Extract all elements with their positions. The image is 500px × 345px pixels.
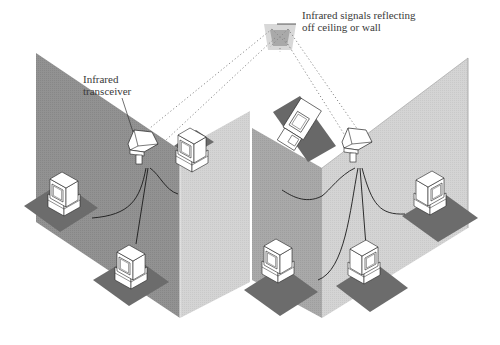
signals-label-line2: off ceiling or wall bbox=[302, 21, 416, 33]
signals-label: Infrared signals reflecting off ceiling … bbox=[302, 9, 416, 33]
signals-label-line1: Infrared signals reflecting bbox=[302, 9, 416, 21]
pc-left-3 bbox=[176, 128, 208, 172]
transceiver-label-line2: transceiver bbox=[83, 85, 131, 97]
infrared-network-diagram bbox=[0, 0, 500, 345]
infrared-signal-paths bbox=[150, 29, 358, 140]
transceiver-label: Infrared transceiver bbox=[83, 73, 131, 97]
transceiver-label-line1: Infrared bbox=[83, 73, 131, 85]
